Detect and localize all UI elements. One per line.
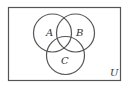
set-a-label: A [45,27,53,38]
set-b-label: B [75,27,83,38]
set-c-label: C [61,55,69,66]
universe-label: U [110,67,119,78]
venn-diagram: A B C U [0,0,131,88]
